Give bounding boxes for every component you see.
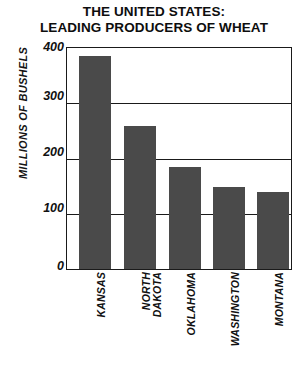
bar-oklahoma xyxy=(169,167,201,269)
bar-washington xyxy=(213,187,245,269)
bar-north-dakota xyxy=(124,126,156,269)
wheat-production-bar-chart: THE UNITED STATES: LEADING PRODUCERS OF … xyxy=(0,0,308,384)
y-tick-label-100: 100 xyxy=(18,201,64,215)
x-axis-category-labels: KANSAS NORTH DAKOTA OKLAHOMA WASHINGTON … xyxy=(66,272,292,384)
plot-area xyxy=(66,47,292,270)
y-tick-label-400: 400 xyxy=(18,40,64,54)
x-label-north-dakota: NORTH DAKOTA xyxy=(141,272,161,384)
x-label-washington: WASHINGTON xyxy=(230,272,250,384)
y-tick-label-0: 0 xyxy=(18,259,64,273)
x-label-montana: MONTANA xyxy=(274,272,294,384)
x-label-kansas: KANSAS xyxy=(96,272,116,384)
chart-title-line-1: THE UNITED STATES: xyxy=(83,4,225,19)
bars-layer xyxy=(67,48,291,269)
bar-montana xyxy=(257,192,289,269)
x-label-oklahoma: OKLAHOMA xyxy=(186,272,206,384)
bar-kansas xyxy=(79,56,111,269)
y-tick-label-200: 200 xyxy=(18,145,64,159)
y-tick-label-300: 300 xyxy=(18,89,64,103)
y-axis-tick-labels: 400 300 200 100 0 xyxy=(12,0,64,384)
